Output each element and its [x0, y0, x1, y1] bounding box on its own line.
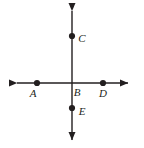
point-label-c: C: [78, 32, 86, 44]
point-dot-c: [69, 33, 75, 39]
point-label-d: D: [98, 87, 107, 99]
geometry-diagram-svg: A B C D E: [0, 0, 144, 148]
point-label-a: A: [29, 87, 37, 99]
geometry-figure: A B C D E: [0, 0, 144, 148]
point-markers: [34, 33, 106, 111]
point-labels: A B C D E: [29, 32, 107, 117]
point-dot-a: [34, 80, 40, 86]
point-label-e: E: [78, 105, 86, 117]
point-dot-e: [69, 105, 75, 111]
point-label-b: B: [74, 86, 81, 98]
point-dot-d: [100, 80, 106, 86]
